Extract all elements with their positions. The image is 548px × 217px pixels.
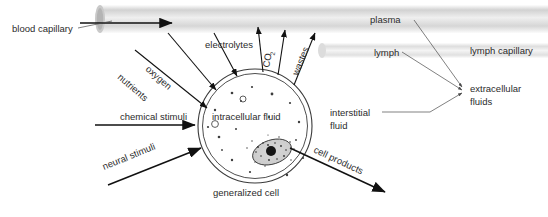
label-chemical-stimuli: chemical stimuli xyxy=(120,111,187,122)
label-co2-subscript: 2 xyxy=(269,51,277,56)
label-nutrients: nutrients xyxy=(116,71,151,103)
label-cell-products: cell products xyxy=(312,144,365,177)
label-blood-capillary: blood capillary xyxy=(12,23,73,34)
label-lymph-capillary: lymph capillary xyxy=(470,45,533,56)
blood-capillary-tube xyxy=(95,5,548,33)
diagram-canvas: blood capillary lymph capillary plasma l… xyxy=(0,0,548,217)
label-wastes: wastes xyxy=(289,45,311,78)
cell-nucleus xyxy=(246,134,294,169)
label-generalized-cell: generalized cell xyxy=(213,187,279,198)
label-interstitial-fluid-line2: fluid xyxy=(330,120,347,131)
label-extracellular-fluids-line2: fluids xyxy=(470,96,492,107)
label-plasma: plasma xyxy=(370,14,401,25)
generalized-cell-body xyxy=(198,69,312,183)
label-interstitial-fluid-line1: interstitial xyxy=(330,107,370,118)
label-co2: CO 2 xyxy=(260,50,276,69)
label-neural-stimuli: neural stimuli xyxy=(101,141,157,172)
cell-fluids-diagram: blood capillary lymph capillary plasma l… xyxy=(0,0,548,217)
interstitial-fluid-leader xyxy=(382,93,462,112)
cytoplasm-granules xyxy=(207,86,304,176)
co2-arrow-2 xyxy=(278,30,285,75)
label-electrolytes: electrolytes xyxy=(205,39,253,50)
label-extracellular-fluids-line1: extracellular xyxy=(470,83,521,94)
nucleolus xyxy=(266,146,276,156)
label-lymph: lymph xyxy=(374,47,399,58)
label-intracellular-fluid: intracellular fluid xyxy=(212,111,281,122)
